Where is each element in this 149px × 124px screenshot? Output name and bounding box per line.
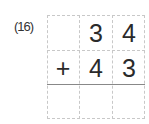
answer-cell-1[interactable] [47,85,79,119]
cell-r1-c2: 3 [80,16,112,50]
answer-cell-2[interactable] [80,85,112,119]
answer-cell-3[interactable] [113,85,145,119]
cell-r2-c3: 3 [113,51,145,85]
problem-label: (16) [14,19,33,34]
cell-r1-c1 [47,16,79,50]
plus-sign: + [47,51,79,85]
cell-r2-c2: 4 [80,51,112,85]
cell-r1-c3: 4 [113,16,145,50]
addition-grid: 3 4 + 4 3 [47,15,145,119]
